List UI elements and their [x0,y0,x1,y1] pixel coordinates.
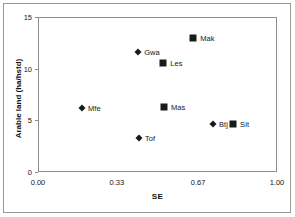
data-point-label: Tof [145,133,155,142]
data-point-marker [135,49,142,56]
x-axis-tick-label: 0.67 [191,178,206,187]
data-point-label: Sit [240,120,249,129]
y-axis-tick-label: 5 [6,116,32,125]
data-point-label: Les [170,59,182,68]
y-axis-tick-label: 15 [6,13,32,22]
data-point-label: Mas [171,102,185,111]
data-point-label: Mak [200,33,214,42]
data-point-marker [160,103,167,110]
y-axis-label: Arable land (ha/hstd) [14,34,23,164]
y-axis-tick-label: 0 [6,168,32,177]
data-point-marker [230,121,237,128]
x-axis-tick-label: 0.33 [110,178,125,187]
data-point-marker [135,134,142,141]
y-axis-tick-label: 10 [6,64,32,73]
y-axis-tick-mark [35,172,38,173]
plot-area: MakGwaLesMasMfeBtjSitTof [38,17,277,172]
scatter-chart-figure: Arable land (ha/hstd) SE 051015 0.000.33… [0,0,295,217]
data-point-label: Mfe [88,103,101,112]
x-axis-tick-label: 1.00 [270,178,285,187]
data-point-marker [190,34,197,41]
data-point-label: Btj [219,120,228,129]
data-point-marker [160,60,167,67]
x-axis-label: SE [38,192,277,201]
data-point-marker [209,121,216,128]
data-point-marker [78,104,85,111]
data-point-label: Gwa [144,48,160,57]
x-axis-tick-label: 0.00 [31,178,46,187]
